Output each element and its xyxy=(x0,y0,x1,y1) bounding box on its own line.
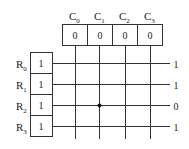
row-value-0: 1 xyxy=(39,58,44,69)
connection-dot xyxy=(98,104,102,108)
row-label-2: R2 xyxy=(16,100,27,115)
row-value-1: 1 xyxy=(39,79,44,90)
column-labels: C0 C1 C2 C3 xyxy=(69,10,155,25)
column-wires xyxy=(76,46,151,140)
crossbar-diagram: C0 C1 C2 C3 0 0 0 0 R0 R1 R2 R3 1 1 1 1 xyxy=(0,0,189,149)
column-value-0: 0 xyxy=(73,30,78,41)
row-output-1: 1 xyxy=(174,80,179,91)
row-value-3: 1 xyxy=(39,121,44,132)
row-wires xyxy=(53,64,171,127)
row-value-2: 1 xyxy=(39,100,44,111)
column-value-3: 0 xyxy=(148,30,153,41)
row-output-3: 1 xyxy=(174,122,179,133)
row-label-1: R1 xyxy=(16,79,27,94)
row-output-0: 1 xyxy=(174,59,179,70)
row-output-2: 0 xyxy=(174,101,179,112)
column-label-1: C1 xyxy=(94,10,105,25)
column-value-2: 0 xyxy=(123,30,128,41)
column-value-1: 0 xyxy=(98,30,103,41)
row-label-3: R3 xyxy=(16,121,27,136)
row-label-0: R0 xyxy=(16,58,27,73)
column-label-2: C2 xyxy=(119,10,130,25)
column-label-0: C0 xyxy=(69,10,80,25)
row-labels: R0 R1 R2 R3 xyxy=(16,58,27,136)
column-label-3: C3 xyxy=(144,10,155,25)
